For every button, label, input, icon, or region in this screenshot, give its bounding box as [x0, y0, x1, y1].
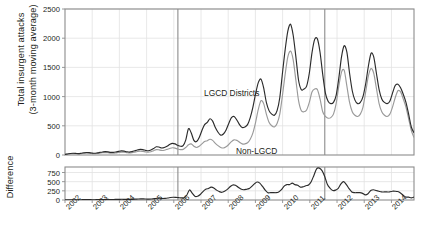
series-label-lgcd-districts: LGCD Districts: [204, 88, 259, 98]
x-tick-label-2009: 2009: [254, 193, 272, 211]
x-tick-label-2008: 2008: [227, 193, 245, 211]
x-tick-label-2004: 2004: [118, 193, 136, 211]
x-tick-label-2012: 2012: [336, 193, 354, 211]
x-tick-label-2006: 2006: [173, 193, 191, 211]
x-tick-label-2013: 2013: [363, 193, 381, 211]
x-tick-label-2011: 2011: [309, 193, 327, 211]
x-tick-label-2002: 2002: [64, 193, 82, 211]
x-tick-label-2003: 2003: [91, 193, 109, 211]
x-tick-label-2005: 2005: [146, 193, 164, 211]
series-label-non-lgcd: Non-LGCD: [236, 146, 277, 156]
x-tick-label-2007: 2007: [200, 193, 218, 211]
chart-figure: Total insurgent attacks (3-month moving …: [0, 0, 433, 234]
x-tick-label-2014: 2014: [390, 193, 408, 211]
x-axis-tick-labels: 2002200320042005200620072008200920102011…: [0, 0, 433, 234]
x-tick-label-2010: 2010: [282, 193, 300, 211]
